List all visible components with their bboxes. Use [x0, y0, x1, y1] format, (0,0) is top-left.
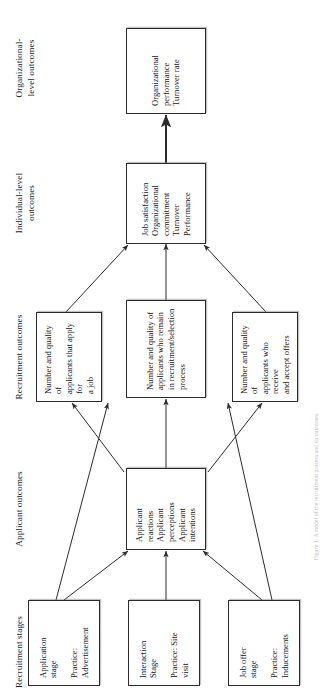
- node-individual-outcomes-text: Job satisfaction Organizational commitme…: [140, 171, 193, 236]
- edge-application-to-apply: [56, 403, 108, 600]
- node-application-stage-text: Application stage Practice: Advertisemen…: [38, 608, 91, 678]
- node-applicant-outcomes-text: Applicant reactions Applicant perception…: [134, 476, 198, 542]
- column-label-recruitment-outcomes: Recruitment outcomes: [14, 309, 26, 405]
- node-applicants-remain-text: Number and quality of applicants who rem…: [145, 308, 187, 390]
- column-label-individual-level: Individual-level outcomes: [14, 161, 37, 245]
- node-job-offer-stage[interactable]: Job offer stage Practice: Inducements: [228, 600, 300, 686]
- node-interaction-stage[interactable]: Interaction Stage Practice: Site visit: [128, 600, 200, 686]
- node-organizational-outcomes-text: Organizational performance Turnover rate: [150, 36, 182, 106]
- diagram-canvas: Recruitment stages Applicant outcomes Re…: [0, 0, 331, 700]
- edge-accept-to-individual: [204, 245, 266, 312]
- edge-apply-to-individual: [66, 245, 128, 312]
- edge-joboffer-to-accept: [228, 403, 272, 600]
- edge-applicant-to-apply: [72, 403, 124, 472]
- edge-joboffer-to-applicant: [203, 551, 262, 600]
- node-application-stage[interactable]: Application stage Practice: Advertisemen…: [28, 600, 100, 686]
- node-applicants-accept[interactable]: Number and quality of applicants who rec…: [232, 312, 298, 402]
- figure-caption: Figure 1. A model of the recruitment pro…: [313, 412, 319, 560]
- column-label-recruitment-stages: Recruitment stages: [14, 612, 26, 692]
- node-applicants-apply-text: Number and quality of applicants that ap…: [43, 320, 96, 394]
- node-applicants-apply[interactable]: Number and quality of applicants that ap…: [36, 312, 102, 402]
- node-applicants-remain[interactable]: Number and quality of applicants who rem…: [126, 300, 206, 398]
- edge-applicant-to-accept: [208, 403, 262, 472]
- node-applicant-outcomes[interactable]: Applicant reactions Applicant perception…: [126, 468, 206, 550]
- node-individual-outcomes[interactable]: Job satisfaction Organizational commitme…: [126, 163, 206, 244]
- node-organizational-outcomes[interactable]: Organizational performance Turnover rate: [126, 28, 206, 114]
- column-label-applicant-outcomes: Applicant outcomes: [14, 466, 26, 552]
- edge-application-to-applicant: [64, 551, 128, 600]
- column-label-organizational-level: Organizational- level outcomes: [14, 22, 37, 114]
- node-job-offer-stage-text: Job offer stage Practice: Inducements: [238, 608, 291, 678]
- node-interaction-stage-text: Interaction Stage Practice: Site visit: [138, 608, 191, 678]
- node-applicants-accept-text: Number and quality of applicants who rec…: [239, 320, 292, 394]
